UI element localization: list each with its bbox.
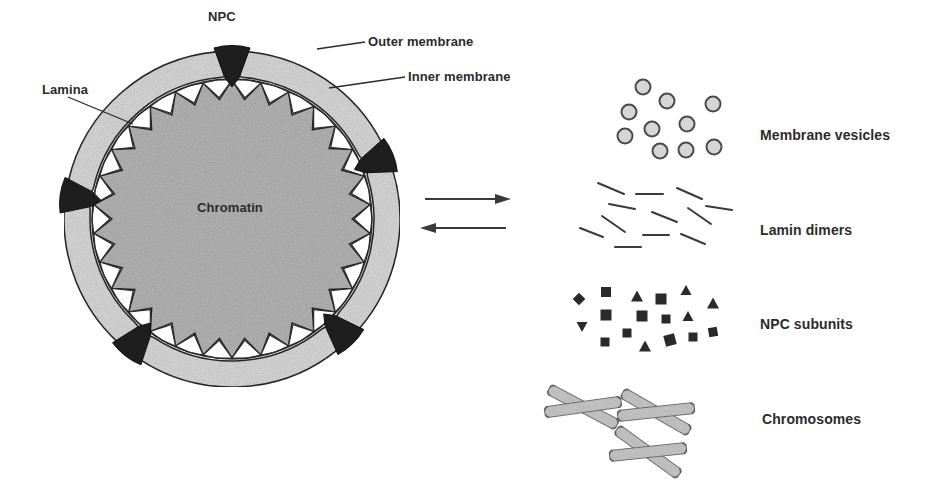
npc-subunit-square [689,333,698,342]
vesicle [660,94,675,109]
lamin-dimer [681,234,705,244]
nuclear-envelope-diagram: NPC Outer membrane Inner membrane Lamina… [0,0,944,502]
npc-subunit-square [573,293,586,306]
npc-subunits-icon [573,285,719,351]
left-arrowhead [420,223,436,233]
npc-subunit-square [663,333,676,346]
vesicle [706,97,721,112]
lamin-dimer [652,212,677,222]
npc-subunit-square [601,287,611,297]
npc-subunit-square [601,338,610,347]
npc-subunit-square [637,311,648,322]
npc-subunits-label: NPC subunits [760,316,853,332]
npc-subunit-square [708,327,718,337]
inner-membrane-leader [329,77,405,88]
npc-subunit-square [601,310,612,321]
outer-membrane-label: Outer membrane [368,34,473,49]
lamin-dimers-icon [580,183,732,247]
vesicle [679,143,694,158]
chromosome [544,383,623,430]
npc-subunit-square [656,294,667,305]
npc-subunit-triangle [681,285,692,295]
membrane-vesicles-icon [618,80,722,159]
right-arrowhead [495,194,511,204]
vesicle [680,117,695,132]
vesicle [622,105,637,120]
vesicle [645,122,660,137]
lamina-label: Lamina [42,82,88,97]
lamin-dimer [598,183,624,194]
chromatin-label: Chromatin [197,200,263,215]
vesicle [636,80,651,95]
npc-subunit-triangle [639,341,651,352]
inner-membrane-label: Inner membrane [408,69,511,84]
lamin-dimer [609,204,635,209]
equilibrium-arrows [420,194,511,233]
lamin-dimer [580,228,603,237]
vesicle [653,144,668,159]
npc-label: NPC [208,9,236,24]
npc-subunit-square [662,315,671,324]
chromosome [609,424,688,480]
lamin-dimers-label: Lamin dimers [760,222,852,238]
chromosome [617,387,696,436]
npc-subunit-triangle [707,298,719,309]
lamin-dimer [677,188,702,199]
chromosomes-label: Chromosomes [762,411,861,427]
lamin-dimer [706,206,732,210]
npc-subunit-triangle [683,311,694,321]
membrane-vesicles-label: Membrane vesicles [760,127,890,143]
vesicle [707,140,722,155]
npc-subunit-triangle [631,291,643,302]
npc-subunit-triangle [577,322,588,332]
npc-subunit-square [623,329,632,338]
lamin-dimer [688,208,711,224]
lamin-dimer [602,216,625,232]
chromosomes-icon [544,383,696,479]
vesicle [618,129,633,144]
outer-membrane-leader [317,42,365,49]
